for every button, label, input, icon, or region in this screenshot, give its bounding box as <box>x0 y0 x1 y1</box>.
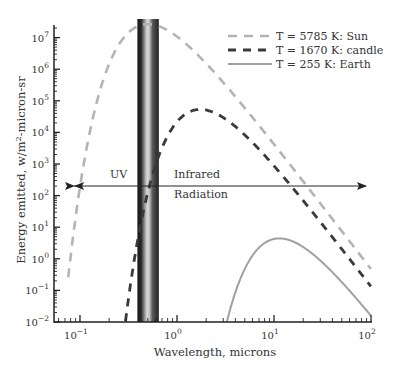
y-tick-label: 103 <box>31 156 49 170</box>
y-tick-label: 10−1 <box>25 282 49 296</box>
y-tick-label: 10−2 <box>25 314 49 328</box>
axes: 10−210−110010110210310410510610710−11001… <box>25 25 376 341</box>
x-tick-label: 101 <box>261 327 279 341</box>
y-tick-label: 105 <box>31 93 49 107</box>
y-tick-label: 102 <box>31 188 49 202</box>
legend-label: T = 5785 K: Sun <box>276 30 368 43</box>
visible-band <box>137 19 158 322</box>
x-tick-label: 10−1 <box>64 327 88 341</box>
x-axis-label: Wavelength, microns <box>154 345 276 359</box>
y-tick-label: 104 <box>31 124 49 138</box>
y-tick-label: 100 <box>31 251 49 265</box>
annotation-radiation: Radiation <box>174 188 228 201</box>
legend-label: T = 255 K: Earth <box>276 58 371 71</box>
x-tick-label: 102 <box>358 327 376 341</box>
legend-label: T = 1670 K: candle <box>276 44 383 57</box>
series-line-2 <box>227 238 371 322</box>
series-line-1 <box>126 109 371 321</box>
blackbody-chart: UVInfraredRadiation 10−210−1100101102103… <box>0 0 398 372</box>
y-axis-label: Energy emitted, w/m2-micron-sr <box>14 76 28 264</box>
y-tick-label: 101 <box>31 219 49 233</box>
annotation-uv: UV <box>110 168 128 181</box>
annotation-infrared: Infrared <box>174 168 220 181</box>
y-tick-label: 106 <box>31 61 49 75</box>
annotations: UVInfraredRadiation <box>74 168 366 201</box>
x-tick-label: 100 <box>164 327 182 341</box>
y-tick-label: 107 <box>31 30 49 44</box>
legend: T = 5785 K: SunT = 1670 K: candleT = 255… <box>228 30 383 71</box>
